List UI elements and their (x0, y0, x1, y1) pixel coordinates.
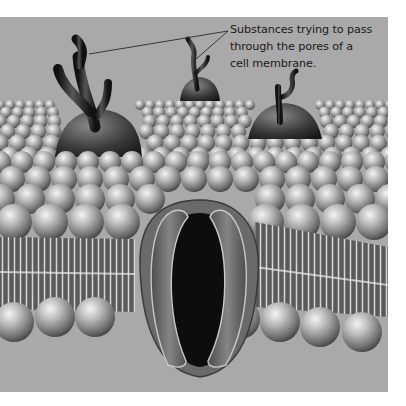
caption-line-3: cell membrane. (230, 55, 388, 72)
membrane-drawing (0, 17, 388, 392)
cell-membrane-illustration: Substances trying to pass through the po… (0, 17, 388, 392)
caption-line-2: through the pores of a (230, 38, 388, 55)
membrane-pore (140, 200, 258, 377)
caption-line-1: Substances trying to pass (230, 21, 388, 38)
protein-dome-middle (180, 77, 220, 101)
protein-dome-right (248, 103, 322, 139)
annotation-caption: Substances trying to pass through the po… (230, 21, 388, 72)
